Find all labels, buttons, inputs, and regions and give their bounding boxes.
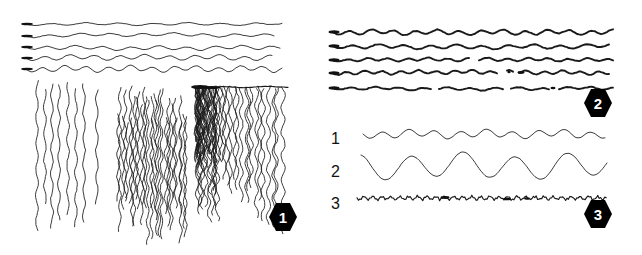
pen-stroke: [333, 70, 497, 75]
pen-stroke: [26, 65, 282, 73]
pen-stroke: [43, 90, 46, 204]
ink-blob: [441, 196, 450, 199]
ink-blob: [21, 68, 33, 71]
pen-stroke: [66, 83, 69, 215]
pen-stroke: [26, 33, 274, 38]
pen-stroke: [170, 104, 173, 230]
pen-stroke: [519, 70, 609, 75]
ink-blob: [329, 86, 340, 89]
ink-blob: [524, 197, 530, 199]
pen-stroke: [50, 84, 53, 228]
pen-stroke: [26, 22, 282, 25]
pen-stroke: [511, 87, 549, 90]
panel-badge-3-number: 3: [594, 206, 602, 223]
ink-blob: [329, 71, 340, 74]
wave-row-label-3: 3: [331, 196, 347, 212]
wave-row-label-2: 2: [331, 164, 347, 180]
pen-stroke: [135, 97, 138, 199]
pen-stroke: [357, 195, 606, 201]
pen-stroke: [58, 85, 61, 220]
pen-stroke: [26, 54, 272, 60]
panel-3-strokes: [321, 113, 642, 255]
ink-blob: [503, 198, 511, 201]
ink-blob: [204, 86, 220, 89]
ink-blob: [21, 23, 33, 26]
stroke-test-figure: 1 2 1 2 3 3: [0, 0, 642, 255]
pen-stroke: [333, 44, 609, 49]
pen-stroke: [333, 57, 469, 61]
ink-blob: [329, 30, 340, 33]
pen-stroke: [274, 88, 279, 217]
pen-stroke: [118, 87, 121, 231]
panel-3: [321, 113, 642, 255]
panel-badge-2-number: 2: [594, 95, 602, 112]
pen-stroke: [333, 29, 613, 35]
pen-stroke: [95, 90, 98, 204]
wave-row-label-1: 1: [331, 131, 347, 147]
panel-1: 1: [0, 0, 321, 255]
pen-stroke: [126, 123, 129, 198]
pen-stroke: [136, 92, 139, 209]
ink-blob: [329, 44, 340, 47]
ink-blob: [551, 87, 556, 90]
pen-stroke: [26, 45, 280, 50]
ink-blob: [507, 71, 510, 74]
panel-badge-1-number: 1: [279, 209, 287, 226]
pen-stroke: [261, 89, 265, 221]
pen-stroke: [333, 87, 431, 91]
ink-blob: [21, 57, 33, 60]
panel-badge-1: 1: [268, 202, 298, 232]
panel-badge-3: 3: [583, 199, 613, 229]
pen-stroke: [82, 84, 85, 222]
pen-stroke: [363, 129, 605, 139]
pen-stroke: [75, 89, 78, 227]
ink-blob: [21, 35, 33, 38]
ink-blob: [21, 46, 33, 49]
pen-stroke: [239, 88, 243, 202]
ink-blob: [329, 58, 340, 61]
pen-stroke: [439, 87, 503, 91]
pen-stroke: [35, 81, 38, 231]
ink-blob: [518, 71, 525, 74]
pen-stroke: [361, 152, 607, 180]
pen-stroke: [479, 58, 613, 62]
